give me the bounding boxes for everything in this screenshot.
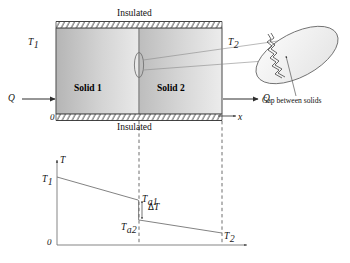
graph-end-temperature-label: T2 [224, 226, 235, 242]
bottom-insulated-label: Insulated [117, 123, 152, 133]
graph-origin-label: 0 [47, 238, 52, 247]
graph-start-temperature-subscript: 1 [47, 176, 52, 187]
left-surface-temperature-label: T1 [28, 32, 39, 48]
temperature-profile-solid-1 [57, 177, 138, 200]
solid-1-body [56, 28, 139, 114]
graph-start-temperature-label: T1 [42, 169, 53, 185]
delta-temperature-symbol: T [154, 202, 159, 212]
magnifier-caption: Gap between solids [262, 97, 321, 105]
solid-2-body [139, 28, 222, 114]
heat-in-label: Q [8, 94, 15, 104]
left-surface-temperature-subscript: 1 [33, 39, 38, 50]
delta-temperature-label: ΔT [148, 203, 159, 213]
top-insulated-label: Insulated [117, 9, 152, 19]
bottom-insulation-band [56, 114, 222, 121]
graph-end-temperature-subscript: 2 [229, 233, 234, 244]
graph-y-axis-symbol: T [60, 155, 65, 165]
schematic-origin-label: 0 [50, 113, 55, 122]
thermal-contact-resistance-figure [0, 0, 350, 263]
solid-2-label: Solid 2 [157, 84, 185, 94]
right-surface-temperature-label: T2 [228, 32, 239, 48]
right-surface-temperature-subscript: 2 [233, 39, 238, 50]
solid-1-label: Solid 1 [74, 84, 102, 94]
graph-y-axis-label: T [60, 150, 65, 166]
magnified-gap-view [247, 14, 347, 96]
top-insulation-band [56, 22, 222, 29]
temperature-profile-solid-2 [139, 220, 222, 233]
interface-temperature-lower-subscript: a2 [126, 224, 136, 235]
interface-temperature-lower-label: Ta2 [121, 217, 137, 233]
schematic-x-axis-label: x [238, 113, 242, 123]
